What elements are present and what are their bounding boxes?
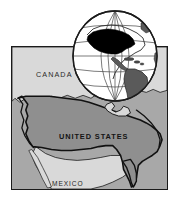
- globe-inset: [69, 7, 161, 104]
- figure-canvas: CANADA UNITED STATES MEXICO: [0, 0, 180, 198]
- globe-graphic: [69, 7, 161, 104]
- globe-south-america: [124, 69, 148, 102]
